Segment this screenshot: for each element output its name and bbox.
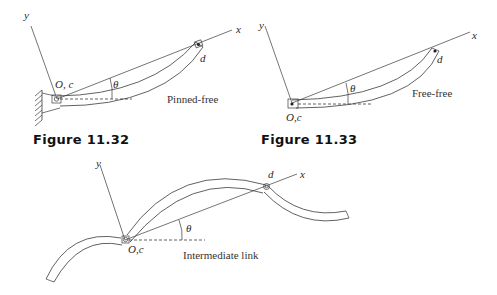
x-axis-line: [125, 174, 297, 240]
y-axis-line: [100, 165, 125, 240]
endpoint-label: d: [268, 168, 274, 180]
figure-caption-11-32: Figure 11.32: [33, 132, 129, 147]
previous-link-upper-edge: [46, 236, 121, 279]
link-lower-edge: [130, 187, 263, 242]
origin-label: O,c: [128, 243, 144, 255]
next-link-upper-edge: [268, 186, 346, 213]
intermediate-link-diagram: y x O,c d θ Intermediate link: [0, 0, 497, 295]
next-link-lower-edge: [264, 192, 349, 221]
figure-caption-11-33: Figure 11.33: [261, 132, 357, 147]
x-axis-label: x: [299, 168, 305, 180]
y-axis-label: y: [95, 157, 101, 169]
textbook-page: y x O, c d θ Pinned-free y x O,c d θ Fre…: [0, 0, 497, 295]
theta-label: θ: [186, 222, 192, 234]
theta-arc: [179, 220, 182, 240]
link-upper-edge: [127, 179, 266, 235]
intermediate-link-label: Intermediate link: [183, 249, 259, 261]
previous-link-lower-edge: [54, 243, 122, 282]
